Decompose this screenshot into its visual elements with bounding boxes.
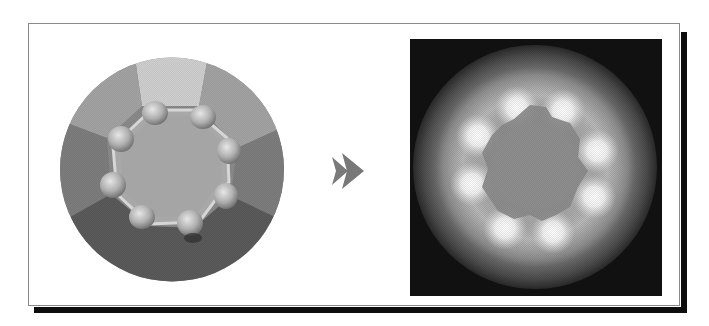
bump xyxy=(100,172,126,198)
frame-shadow-bottom xyxy=(34,307,687,313)
fast-forward-icon xyxy=(330,151,366,191)
bump xyxy=(129,205,155,229)
bump xyxy=(108,126,134,152)
source-disc: Source disc xyxy=(59,56,285,283)
bump xyxy=(217,138,241,164)
bump xyxy=(214,183,238,209)
source-disc-graphic xyxy=(59,56,285,283)
glow-rendering-graphic xyxy=(410,39,662,296)
bump xyxy=(190,105,216,129)
bump xyxy=(177,210,203,236)
figure-stage: Source disc xyxy=(0,0,709,326)
glow-rendering-panel: Glow rendering xyxy=(410,39,662,296)
bump xyxy=(142,101,168,125)
frame-shadow-right xyxy=(681,32,687,313)
